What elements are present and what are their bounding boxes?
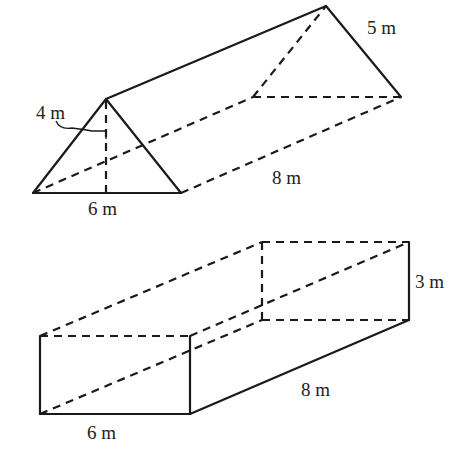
bottom-right-edge (190, 320, 409, 414)
base-label: 6 m (88, 198, 117, 219)
right-angle-marker (98, 131, 106, 139)
height-label: 4 m (36, 102, 65, 123)
front-right-edge (106, 99, 181, 193)
height-label: 3 m (415, 271, 444, 292)
slant-side-label: 5 m (367, 17, 396, 38)
geometry-diagram: 4 m 6 m 5 m 8 m 3 m 6 m 8 m (0, 0, 475, 452)
hidden-edge-back-left-side (253, 6, 326, 97)
rectangular-prism: 3 m 6 m 8 m (40, 242, 444, 443)
length-label: 8 m (272, 167, 301, 188)
ridge-edge (106, 6, 326, 99)
width-label: 6 m (87, 422, 116, 443)
triangular-prism: 4 m 6 m 5 m 8 m (33, 6, 401, 219)
hidden-edge-top-left (40, 242, 262, 336)
length-label: 8 m (301, 379, 330, 400)
hidden-edge-bottom-left (40, 320, 262, 414)
hidden-edge-top-right (190, 242, 409, 336)
